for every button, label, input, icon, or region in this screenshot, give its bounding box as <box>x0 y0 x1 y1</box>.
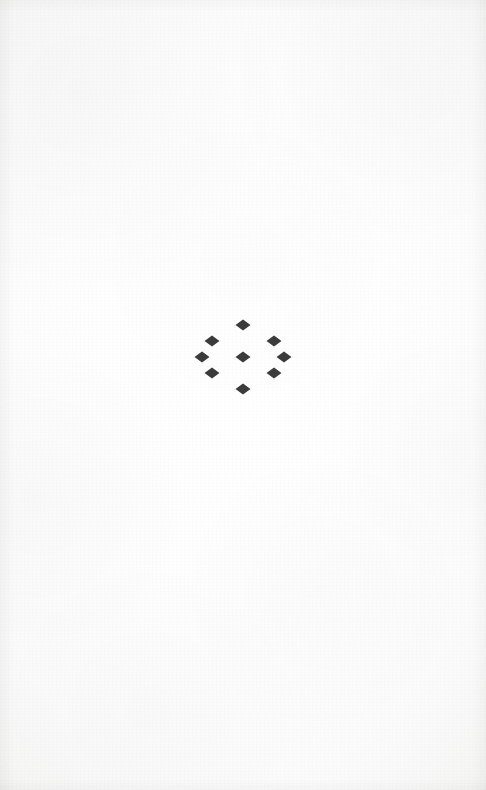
ornament-container <box>0 0 486 790</box>
diamond-2 <box>236 320 251 331</box>
ornament-diamond-group <box>195 320 292 395</box>
diamond-7 <box>205 368 220 379</box>
diamond-lattice-ornament <box>183 311 303 403</box>
diamond-5 <box>236 352 251 363</box>
diamond-3 <box>267 336 282 347</box>
diamond-8 <box>236 384 251 395</box>
book-page <box>0 0 486 790</box>
diamond-1 <box>205 336 220 347</box>
diamond-6 <box>277 352 292 363</box>
diamond-9 <box>267 368 282 379</box>
diamond-4 <box>195 352 210 363</box>
